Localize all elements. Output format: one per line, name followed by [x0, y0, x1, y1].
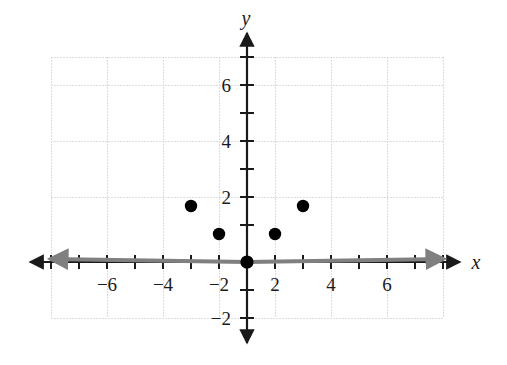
data-point [240, 255, 253, 268]
x-tick-label-4: 4 [326, 274, 336, 295]
data-point [185, 200, 197, 212]
y-tick-label-neg2: −2 [211, 308, 231, 329]
y-tick-label-4: 4 [222, 131, 232, 152]
coordinate-plane: −6 −4 −2 2 4 6 6 4 2 −2 x y [0, 0, 507, 365]
x-tick-label-6: 6 [382, 274, 392, 295]
graph-figure: −6 −4 −2 2 4 6 6 4 2 −2 x y [0, 0, 507, 365]
x-tick-label-2: 2 [270, 274, 280, 295]
y-axis-label: y [240, 7, 251, 30]
data-point [297, 200, 309, 212]
x-tick-label-neg2: −2 [209, 274, 229, 295]
plot-background [0, 0, 507, 365]
data-point [213, 228, 225, 240]
x-axis-label: x [471, 251, 481, 273]
data-point [269, 228, 281, 240]
y-tick-label-6: 6 [222, 75, 232, 96]
x-tick-label-neg4: −4 [153, 274, 174, 295]
x-tick-label-neg6: −6 [97, 274, 117, 295]
y-tick-label-2: 2 [222, 187, 232, 208]
